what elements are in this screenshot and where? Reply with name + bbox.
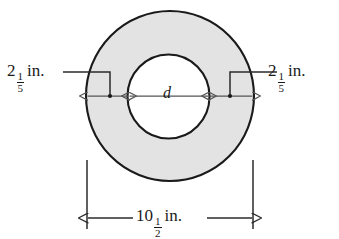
right-thickness-denominator: 5 bbox=[278, 82, 286, 94]
outer-diameter-unit: in. bbox=[165, 206, 182, 225]
outer-diameter-numerator: 1 bbox=[154, 216, 162, 227]
figure-canvas bbox=[0, 0, 339, 239]
outer-diameter-label: 1012in. bbox=[136, 207, 182, 239]
inner-diameter-label: d bbox=[163, 85, 171, 101]
left-thickness-denominator: 5 bbox=[17, 82, 25, 94]
left-leader-dot bbox=[108, 94, 112, 98]
right-leader-dot bbox=[228, 94, 232, 98]
left-thickness-unit: in. bbox=[27, 61, 44, 80]
right-thickness-label: 215in. bbox=[268, 62, 305, 94]
right-thickness-unit: in. bbox=[288, 61, 305, 80]
annulus-dimension-figure: 215in. 215in. 1012in. d bbox=[0, 0, 339, 239]
right-thickness-fraction: 15 bbox=[278, 71, 286, 94]
outer-diameter-fraction: 12 bbox=[154, 216, 162, 239]
outer-diameter-denominator: 2 bbox=[154, 227, 162, 239]
right-thickness-whole: 2 bbox=[268, 61, 277, 80]
right-thickness-numerator: 1 bbox=[278, 71, 286, 82]
left-thickness-numerator: 1 bbox=[17, 71, 25, 82]
left-thickness-fraction: 15 bbox=[17, 71, 25, 94]
left-thickness-whole: 2 bbox=[7, 61, 16, 80]
outer-diameter-whole: 10 bbox=[136, 206, 153, 225]
left-thickness-label: 215in. bbox=[7, 62, 44, 94]
